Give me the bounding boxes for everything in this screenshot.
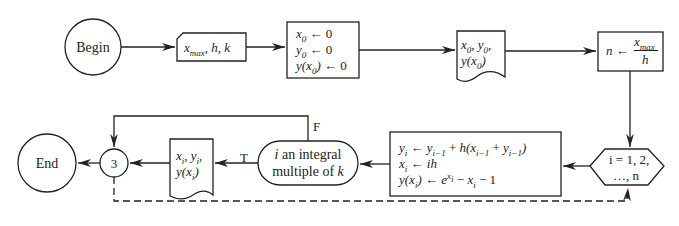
print-init-label: x0, y0,y(x0): [461, 37, 491, 69]
false-label: F: [313, 119, 320, 134]
input-label: xmax, h, k: [184, 40, 230, 55]
true-label: T: [240, 150, 248, 165]
loop-label: i = 1, 2,…, n: [609, 152, 649, 184]
decision-label: i an integralmultiple of k: [258, 146, 358, 180]
init-label: x0 ← 0y0 ← 0y(x0) ← 0: [296, 26, 347, 74]
begin-label: Begin: [65, 40, 121, 55]
print-loop-label: xi, yi,y(xi): [176, 148, 202, 180]
connector-label: 3: [104, 156, 124, 171]
update-label: yi ← yi−1 + h(xi−1 + yi−1)xi ← ihy(xi) ←…: [399, 140, 526, 188]
end-label: End: [18, 156, 76, 171]
